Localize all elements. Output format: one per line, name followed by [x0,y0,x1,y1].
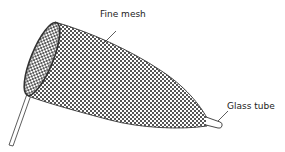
plankton-net-diagram: Fine mesh Glass tube [0,0,285,152]
net-illustration [0,0,285,152]
tube-leader-line [218,111,228,121]
glass-tube [206,117,222,128]
mesh-label: Fine mesh [100,10,146,19]
handle [9,94,31,146]
tube-label: Glass tube [227,102,275,111]
